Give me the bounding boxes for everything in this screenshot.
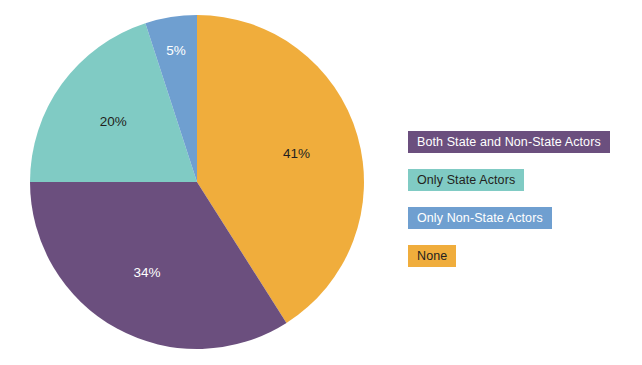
legend-item[interactable]: Only State Actors: [408, 169, 638, 191]
chart-legend: Both State and Non-State ActorsOnly Stat…: [408, 131, 638, 267]
pie-slice-data-label: 34%: [134, 265, 161, 280]
pie-slice-group: [30, 15, 364, 349]
legend-item[interactable]: Only Non-State Actors: [408, 207, 638, 229]
pie-slice-data-label: 20%: [100, 114, 127, 129]
legend-item[interactable]: Both State and Non-State Actors: [408, 131, 638, 153]
legend-swatch: Only State Actors: [408, 169, 524, 191]
pie-chart-svg: 41%34%20%5%: [30, 15, 364, 349]
chart-canvas: 41%34%20%5% Both State and Non-State Act…: [0, 0, 642, 365]
legend-item-label: Both State and Non-State Actors: [417, 136, 601, 149]
pie-slice-data-label: 5%: [166, 43, 186, 58]
pie-slice-data-label: 41%: [283, 146, 310, 161]
legend-item-label: None: [417, 250, 447, 263]
legend-item[interactable]: None: [408, 245, 638, 267]
legend-item-label: Only Non-State Actors: [417, 212, 543, 225]
legend-swatch: None: [408, 245, 456, 267]
pie-chart: 41%34%20%5%: [30, 15, 364, 349]
legend-swatch: Only Non-State Actors: [408, 207, 552, 229]
legend-item-label: Only State Actors: [417, 174, 515, 187]
legend-swatch: Both State and Non-State Actors: [408, 131, 610, 153]
